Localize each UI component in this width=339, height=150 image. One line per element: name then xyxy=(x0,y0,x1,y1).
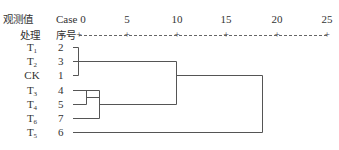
dendrogram-tree xyxy=(0,0,339,150)
